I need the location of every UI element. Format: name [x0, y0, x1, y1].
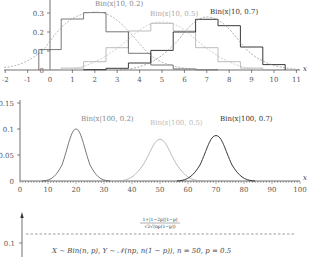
series-normal-10-0.2: [4, 12, 215, 70]
svg-text:3: 3: [115, 76, 119, 84]
series-normal-10-0.5: [60, 22, 264, 70]
label-bin-100-0.7: Bin(x|100, 0.7): [220, 115, 273, 123]
svg-text:0: 0: [48, 76, 52, 84]
svg-text:60: 60: [184, 186, 193, 194]
series-bin-10-0.2-step: [39, 13, 218, 70]
svg-text:11: 11: [292, 76, 301, 84]
svg-text:6: 6: [182, 76, 187, 84]
top-ytick-0.2: 0.2: [33, 29, 44, 37]
top-y-ticks: 0.3 0.2 0.1 0: [33, 10, 50, 75]
distribution-formula: X ∼ Bin(n, p), Y ∼ 𝒩(np, n(1 − p)), n = …: [51, 247, 232, 255]
svg-text:20: 20: [72, 186, 81, 194]
series-normal-10-0.7: [120, 17, 300, 70]
svg-text:5: 5: [160, 76, 164, 84]
bottom-chart: 0.1 1+|1−2p|(1−p) √2√(np(1−p)) X ∼ Bin(n…: [4, 212, 296, 257]
mid-ytick-0.1: 0.1: [3, 126, 14, 134]
label-bin-10-0.2: Bin(x|10, 0.2): [95, 0, 143, 8]
series-bin-100-0.7: [177, 136, 255, 181]
bot-ytick-0.1: 0.1: [4, 240, 15, 248]
svg-text:7: 7: [205, 76, 209, 84]
top-x-label: x: [303, 65, 307, 73]
svg-text:1: 1: [70, 76, 74, 84]
svg-text:0: 0: [18, 186, 22, 194]
top-ytick-0: 0: [40, 67, 44, 75]
svg-text:9: 9: [249, 76, 253, 84]
svg-text:10: 10: [270, 76, 279, 84]
label-bin-100-0.2: Bin(x|100, 0.2): [81, 115, 134, 123]
mid-ytick-0: 0: [10, 178, 14, 186]
svg-text:50: 50: [156, 186, 165, 194]
middle-chart: 0.15 0.1 0.05 0 0 10 20 30 40 50 60 70 8…: [0, 100, 307, 195]
svg-text:4: 4: [137, 76, 142, 84]
mid-x-tick-labels: 0 10 20 30 40 50 60 70 80 90 100: [18, 186, 307, 194]
top-x-ticks: [5, 70, 296, 73]
svg-text:2: 2: [93, 76, 97, 84]
svg-text:8: 8: [227, 76, 231, 84]
mid-x-minor-ticks: [20, 181, 300, 184]
mid-y-ticks: [17, 103, 20, 155]
svg-text:-1: -1: [24, 76, 31, 84]
svg-text:70: 70: [212, 186, 221, 194]
top-ytick-0.3: 0.3: [33, 10, 44, 18]
label-bin-10-0.5: Bin(x|10, 0.5): [150, 10, 198, 18]
mid-ytick-0.05: 0.05: [0, 152, 14, 160]
top-x-tick-labels: -2 -1 0 1 2 3 4 5 6 7 8 9 10 11: [2, 76, 301, 84]
series-bin-10-0.7-step: [84, 19, 286, 70]
mid-ytick-0.15: 0.15: [0, 100, 14, 108]
binomial-figure: 0.3 0.2 0.1 0 -2 -1 0 1 2 3 4 5 6 7 8: [0, 0, 312, 257]
bound-fraction-denominator: √2√(np(1−p)): [145, 224, 176, 229]
label-bin-10-0.7: Bin(x|10, 0.7): [210, 8, 258, 16]
svg-text:30: 30: [100, 186, 109, 194]
mid-x-label: x: [303, 174, 307, 182]
svg-text:10: 10: [44, 186, 53, 194]
svg-text:90: 90: [268, 186, 277, 194]
label-bin-100-0.5: Bin(x|100, 0.5): [150, 119, 203, 127]
top-chart: 0.3 0.2 0.1 0 -2 -1 0 1 2 3 4 5 6 7 8: [2, 0, 307, 84]
series-bin-100-0.2: [42, 129, 110, 181]
series-bin-100-0.5: [118, 139, 202, 181]
bound-fraction-numerator: 1+|1−2p|(1−p): [142, 217, 177, 223]
svg-text:80: 80: [240, 186, 249, 194]
svg-text:40: 40: [128, 186, 137, 194]
svg-text:-2: -2: [2, 76, 9, 84]
bot-y-axis-arrow-icon: [20, 212, 23, 218]
svg-text:100: 100: [293, 186, 306, 194]
